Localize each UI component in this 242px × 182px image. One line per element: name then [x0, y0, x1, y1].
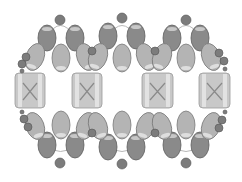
light-drop-bead — [52, 111, 70, 139]
round-seed-bead — [55, 15, 65, 25]
cube-bead — [15, 73, 45, 108]
light-drop-bead — [113, 44, 131, 72]
round-seed-bead — [18, 60, 26, 68]
round-seed-bead — [20, 115, 28, 123]
round-seed-bead — [20, 69, 24, 73]
round-seed-bead — [55, 158, 65, 168]
cube-bead — [199, 73, 230, 108]
bead-pattern-diagram — [0, 0, 242, 182]
round-seed-bead — [181, 158, 191, 168]
round-seed-bead — [223, 67, 227, 71]
round-seed-bead — [215, 49, 223, 57]
cube-bead — [142, 73, 173, 108]
round-seed-bead — [117, 13, 127, 23]
light-drop-bead — [177, 111, 195, 139]
round-seed-bead — [24, 123, 32, 131]
round-seed-bead — [220, 57, 228, 65]
light-drop-bead — [113, 111, 131, 139]
round-seed-bead — [20, 110, 24, 114]
round-seed-bead — [88, 129, 96, 137]
round-seed-bead — [223, 110, 227, 114]
round-seed-bead — [215, 124, 223, 132]
light-drop-bead — [177, 44, 195, 72]
round-seed-bead — [88, 47, 96, 55]
round-seed-bead — [117, 159, 127, 169]
round-seed-bead — [181, 15, 191, 25]
round-seed-bead — [151, 129, 159, 137]
cube-bead — [72, 73, 102, 108]
light-drop-bead — [52, 44, 70, 72]
round-seed-bead — [151, 47, 159, 55]
round-seed-bead — [22, 53, 30, 61]
round-seed-bead — [218, 116, 226, 124]
